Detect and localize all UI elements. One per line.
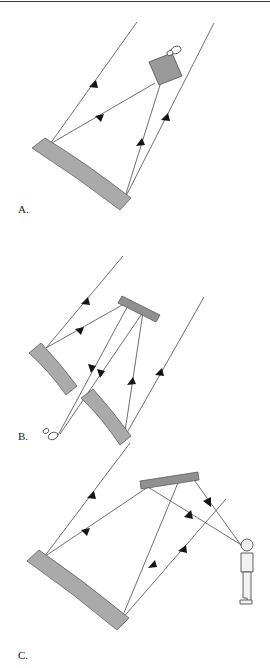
panel-c-primary-mirror [27, 550, 129, 630]
ray-c-up-left [44, 487, 148, 557]
panel-c-secondary-to-observer [148, 477, 243, 548]
figure-root: A. [0, 0, 270, 668]
arrowhead-c-up-left [81, 528, 90, 536]
observer-legs-icon [243, 572, 251, 602]
arrowhead-b-down-b [97, 369, 105, 378]
camera-body-icon [149, 53, 182, 85]
panel-b-group: B. [18, 256, 204, 445]
eyepiece-inner-icon [42, 428, 49, 435]
panel-a-camera [149, 45, 182, 85]
observer-feet-icon [240, 600, 252, 604]
ray-c-to-observer-a [148, 487, 243, 546]
panel-b-incoming-rays [46, 256, 204, 438]
panel-a-group: A. [18, 22, 214, 215]
panel-c-label: C. [18, 649, 28, 661]
panel-c-group: C. [18, 443, 253, 661]
panel-c-secondary-mirror [140, 472, 199, 489]
ray-c-incoming-left [44, 443, 130, 557]
arrowhead-reflected-left [95, 114, 104, 122]
arrowhead-c-incoming-right [178, 545, 187, 553]
panel-a-primary-mirror [32, 138, 131, 210]
arrowhead-c-to-observer-a [184, 510, 193, 519]
optical-diagram-svg: A. [0, 0, 270, 668]
ray-b-up-right [124, 312, 143, 438]
arrowhead-b-up-right [127, 377, 136, 385]
arrowhead-incoming-right [161, 113, 170, 121]
arrowhead-reflected-right [136, 138, 145, 146]
eyepiece-outer-icon [47, 431, 59, 441]
ray-c-to-observer-b [192, 477, 243, 548]
arrowhead-c-incoming-left [87, 491, 96, 499]
arrowhead-b-incoming-left [81, 297, 90, 305]
panel-a-label: A. [18, 203, 29, 215]
arrowhead-incoming-left [89, 80, 98, 88]
ray-b-incoming-right [124, 297, 204, 438]
arrowhead-c-up-right [148, 560, 157, 568]
ray-incoming-right [124, 23, 214, 200]
ray-c-incoming-right [121, 499, 226, 620]
panel-b-primary-mirror-lower [81, 389, 131, 445]
observer-torso-icon [241, 553, 253, 572]
panel-b-eyepiece [42, 428, 59, 442]
observer-head-icon [241, 539, 253, 551]
panel-b-label: B. [18, 430, 28, 442]
panel-c-primary-to-secondary [44, 478, 180, 620]
ray-reflected-left [50, 83, 155, 144]
panel-c-observer [240, 539, 253, 604]
panel-b-primary-mirror-upper [29, 343, 77, 395]
